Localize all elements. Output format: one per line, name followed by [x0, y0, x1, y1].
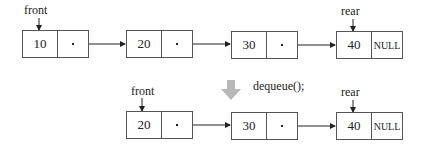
node-data: 20 — [127, 112, 162, 138]
node-before-3: 30 — [231, 31, 298, 59]
node-data: 40 — [337, 32, 372, 58]
rear-label-top: rear — [341, 4, 360, 19]
pointer-dot-icon — [281, 44, 283, 46]
pointer-dot-icon — [72, 43, 74, 45]
pointer-dot-icon — [176, 124, 178, 126]
node-data: 30 — [232, 113, 267, 139]
node-next-pointer — [162, 112, 192, 138]
node-data: 10 — [23, 31, 58, 57]
node-next-null: NULL — [372, 32, 402, 58]
node-before-2: 20 — [126, 30, 193, 58]
node-next-null: NULL — [372, 113, 402, 139]
node-data: 20 — [127, 31, 162, 57]
dequeue-arrow-icon — [221, 80, 241, 100]
node-after-3: 40 NULL — [336, 112, 403, 140]
node-after-2: 30 — [231, 112, 298, 140]
node-next-pointer — [162, 31, 192, 57]
front-label-top: front — [24, 3, 47, 18]
pointer-dot-icon — [281, 125, 283, 127]
node-next-pointer — [58, 31, 88, 57]
rear-label-bottom: rear — [341, 85, 360, 100]
front-label-bottom: front — [131, 84, 154, 99]
pointer-dot-icon — [176, 43, 178, 45]
node-after-1: 20 — [126, 111, 193, 139]
operation-label: dequeue(); — [253, 79, 304, 94]
node-before-1: 10 — [22, 30, 89, 58]
node-next-pointer — [267, 113, 297, 139]
node-data: 30 — [232, 32, 267, 58]
node-next-pointer — [267, 32, 297, 58]
node-before-4: 40 NULL — [336, 31, 403, 59]
node-data: 40 — [337, 113, 372, 139]
